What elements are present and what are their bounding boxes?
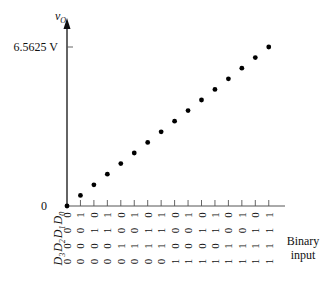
binary-digit: 0	[222, 212, 234, 218]
binary-digit: 1	[101, 228, 113, 234]
binary-digit: 1	[222, 259, 234, 265]
binary-digit: 1	[155, 243, 167, 249]
x-axis-label: input	[291, 248, 316, 262]
dac-output-chart: 06.5625 VvOD3D2D1D0000010000100110000101…	[0, 0, 326, 284]
data-point	[145, 140, 150, 145]
binary-digit: 1	[209, 228, 221, 234]
y-tick-label-zero: 0	[41, 199, 47, 213]
data-point	[118, 161, 123, 166]
data-point	[132, 151, 137, 156]
binary-digit: 0	[128, 258, 140, 264]
binary-digit: 1	[115, 243, 127, 249]
binary-digit: 1	[155, 228, 167, 234]
binary-digit: 0	[115, 227, 127, 233]
binary-digit: 1	[236, 243, 248, 249]
binary-digit: 0	[169, 212, 181, 218]
data-point	[186, 108, 191, 113]
binary-digit: 1	[182, 212, 194, 218]
data-point	[159, 129, 164, 134]
binary-digit: 1	[74, 212, 86, 218]
binary-digit: 1	[236, 212, 248, 218]
binary-digit: 1	[222, 243, 234, 249]
binary-digit: 0	[169, 243, 181, 249]
binary-digit: 1	[236, 259, 248, 265]
binary-digit: 1	[263, 212, 275, 218]
data-point	[172, 119, 177, 124]
binary-digit: 0	[61, 258, 73, 264]
y-tick-label-full-scale: 6.5625 V	[14, 40, 59, 54]
binary-digit: 0	[88, 212, 100, 218]
binary-digit: 0	[142, 258, 154, 264]
binary-digit: 0	[155, 258, 167, 264]
binary-digit: 1	[128, 212, 140, 218]
data-point	[199, 98, 204, 103]
data-point	[266, 45, 271, 50]
binary-digit: 0	[101, 243, 113, 249]
binary-digit: 1	[249, 259, 261, 265]
binary-digit: 1	[209, 259, 221, 265]
binary-digit: 0	[169, 227, 181, 233]
binary-digit: 0	[61, 243, 73, 249]
binary-digit: 1	[263, 228, 275, 234]
binary-digit: 0	[61, 227, 73, 233]
binary-digit: 0	[196, 243, 208, 249]
binary-digit: 1	[169, 259, 181, 265]
data-point	[226, 76, 231, 81]
binary-digit: 0	[88, 243, 100, 249]
binary-digit: 0	[222, 227, 234, 233]
binary-digit: 1	[263, 243, 275, 249]
binary-digit: 0	[196, 212, 208, 218]
bit-order-label: D3D2D1D0	[51, 212, 67, 267]
binary-digit: 0	[209, 243, 221, 249]
data-point	[65, 204, 70, 209]
binary-digit: 0	[115, 212, 127, 218]
binary-digit: 0	[182, 227, 194, 233]
binary-digit: 1	[263, 259, 275, 265]
data-point	[78, 193, 83, 198]
binary-digit: 1	[88, 228, 100, 234]
binary-digit: 0	[236, 227, 248, 233]
binary-digit: 0	[61, 212, 73, 218]
axes	[64, 18, 286, 206]
binary-digit: 0	[88, 258, 100, 264]
binary-digit: 0	[182, 243, 194, 249]
binary-digit: 1	[196, 259, 208, 265]
data-point	[92, 182, 97, 187]
binary-digit: 0	[128, 227, 140, 233]
binary-digit: 1	[196, 228, 208, 234]
binary-digit: 1	[249, 228, 261, 234]
binary-digit: 1	[209, 212, 221, 218]
data-point	[253, 55, 258, 60]
binary-digit: 1	[182, 259, 194, 265]
binary-digit: 0	[249, 212, 261, 218]
binary-digit: 0	[74, 243, 86, 249]
data-point	[213, 87, 218, 92]
binary-digit: 0	[74, 258, 86, 264]
binary-digit: 1	[142, 243, 154, 249]
y-axis-label: vO	[55, 9, 66, 25]
binary-digit: 1	[101, 212, 113, 218]
binary-digit: 0	[115, 258, 127, 264]
binary-digit: 0	[142, 212, 154, 218]
binary-digit: 0	[74, 227, 86, 233]
binary-digit: 1	[155, 212, 167, 218]
binary-digit: 0	[101, 258, 113, 264]
data-point	[105, 172, 110, 177]
data-points	[65, 45, 272, 209]
binary-digit: 1	[128, 243, 140, 249]
data-point	[239, 66, 244, 71]
binary-digit: 1	[142, 228, 154, 234]
labels: 06.5625 VvOD3D2D1D0000010000100110000101…	[14, 9, 320, 267]
x-axis-label: Binary	[287, 234, 320, 248]
binary-digit: 1	[249, 243, 261, 249]
